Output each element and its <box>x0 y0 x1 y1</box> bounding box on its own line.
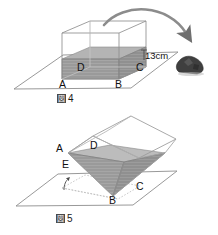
vertex-label-b-fig4: B <box>115 78 122 90</box>
rock-icon <box>176 56 204 76</box>
figure-4-number: 4 <box>68 93 74 104</box>
vertex-label-a-fig5: A <box>56 142 63 154</box>
water-fill-fig5 <box>68 145 165 196</box>
vertex-label-a-fig4: A <box>59 78 66 90</box>
figure-5-group <box>16 116 177 206</box>
dimension-label-13cm: 13cm <box>145 50 168 61</box>
kanji-zu-icon: 図 <box>56 214 65 223</box>
math-figure-illustration: A B C D <box>0 0 218 235</box>
figure-4-caption: 図4 <box>57 93 74 104</box>
vertex-label-d-fig5: D <box>90 139 98 151</box>
vertex-label-b-fig5: B <box>109 194 116 206</box>
figure-5-caption: 図5 <box>56 213 73 224</box>
water-fill-fig4 <box>62 47 146 79</box>
vertex-label-e-fig5: E <box>62 158 69 170</box>
vertex-label-c-fig4: C <box>136 61 144 73</box>
vertex-label-d-fig4: D <box>77 61 85 73</box>
vertex-label-c-fig5: C <box>136 180 144 192</box>
figure-5-number: 5 <box>67 213 73 224</box>
figure-4-group <box>14 9 204 89</box>
kanji-zu-icon: 図 <box>57 94 66 103</box>
